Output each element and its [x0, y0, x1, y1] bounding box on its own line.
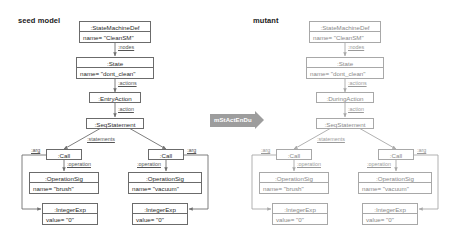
- node-type-label: :StateMachineDef: [80, 22, 150, 32]
- node-operationsig-vacuum-seed[interactable]: :OperationSig name= "vacuum": [128, 172, 202, 194]
- edge-label-statements-mutant: :statements: [317, 136, 345, 142]
- node-attr-name: name= "CleanSM": [80, 32, 150, 42]
- node-type-label: :IntegerExp: [43, 204, 97, 214]
- node-attr-value: value= "0": [133, 214, 187, 224]
- node-call-vacuum-mutant[interactable]: :Call: [378, 149, 414, 160]
- node-type-label: :OperationSig: [129, 173, 201, 183]
- node-attr-name: name= "vacuum": [129, 183, 201, 193]
- node-type-label: :State: [77, 58, 153, 68]
- node-integerexp-left-seed[interactable]: :IntegerExp value= "0": [42, 203, 98, 225]
- node-attr-name: name= "CleanSM": [310, 32, 380, 42]
- node-duringaction-mutant[interactable]: :DuringAction: [316, 92, 374, 103]
- node-call-brush-mutant[interactable]: :Call: [276, 149, 312, 160]
- edge-label-nodes-mutant: :nodes: [348, 44, 364, 50]
- node-type-label: :Call: [277, 150, 311, 159]
- node-type-label: :OperationSig: [30, 173, 98, 183]
- node-seqstatement-seed[interactable]: :SeqStatement: [86, 118, 144, 129]
- edge-label-arg-right-seed: :arg: [187, 147, 196, 153]
- node-attr-name: name= "dont_clean": [77, 68, 153, 78]
- node-attr-value: value= "0": [273, 214, 327, 224]
- node-attr-name: name= "brush": [260, 183, 328, 193]
- node-call-brush-seed[interactable]: :Call: [46, 149, 82, 160]
- node-type-label: :Call: [379, 150, 413, 159]
- edge-label-operation-brush-seed: :operation: [67, 161, 91, 167]
- edge-label-arg-left-seed: :arg: [31, 147, 40, 153]
- edge-label-action-seed: :action: [118, 106, 134, 112]
- node-type-label: :IntegerExp: [133, 204, 187, 214]
- node-attr-name: name= "dont_clean": [307, 68, 383, 78]
- node-attr-name: name= "brush": [30, 183, 98, 193]
- node-entryaction-seed[interactable]: :EntryAction: [89, 92, 141, 103]
- edge-label-operation-vacuum-mutant: :operation: [367, 161, 391, 167]
- node-type-label: :SeqStatement: [317, 119, 373, 128]
- node-type-label: :IntegerExp: [273, 204, 327, 214]
- node-operationsig-vacuum-mutant[interactable]: :OperationSig name= "vacuum": [358, 172, 432, 194]
- mutation-arrow: mStActEnDu: [210, 111, 264, 129]
- edge-label-action-mutant: :action: [348, 106, 364, 112]
- edge-label-actions-seed: :actions: [118, 80, 137, 86]
- node-statemachinedef-mutant[interactable]: :StateMachineDef name= "CleanSM": [309, 21, 381, 43]
- node-type-label: :OperationSig: [359, 173, 431, 183]
- node-state-mutant[interactable]: :State name= "dont_clean": [306, 57, 384, 79]
- node-integerexp-right-mutant[interactable]: :IntegerExp value= "0": [362, 203, 418, 225]
- node-statemachinedef-seed[interactable]: :StateMachineDef name= "CleanSM": [79, 21, 151, 43]
- node-operationsig-brush-mutant[interactable]: :OperationSig name= "brush": [259, 172, 329, 194]
- node-type-label: :OperationSig: [260, 173, 328, 183]
- node-type-label: :StateMachineDef: [310, 22, 380, 32]
- node-call-vacuum-seed[interactable]: :Call: [148, 149, 184, 160]
- figure-canvas: seed model :StateMachineDef name= "Clean…: [0, 0, 458, 238]
- node-integerexp-left-mutant[interactable]: :IntegerExp value= "0": [272, 203, 328, 225]
- node-operationsig-brush-seed[interactable]: :OperationSig name= "brush": [29, 172, 99, 194]
- node-type-label: :EntryAction: [90, 93, 140, 102]
- panel-title-seed: seed model: [18, 16, 60, 25]
- node-state-seed[interactable]: :State name= "dont_clean": [76, 57, 154, 79]
- edge-label-arg-left-mutant: :arg: [261, 147, 270, 153]
- edge-label-operation-vacuum-seed: :operation: [137, 161, 161, 167]
- edge-label-operation-brush-mutant: :operation: [297, 161, 321, 167]
- node-type-label: :DuringAction: [317, 93, 373, 102]
- edge-label-statements-seed: :statements: [87, 136, 115, 142]
- panel-title-mutant: mutant: [253, 16, 279, 25]
- edge-label-nodes-seed: :nodes: [118, 44, 134, 50]
- node-integerexp-right-seed[interactable]: :IntegerExp value= "0": [132, 203, 188, 225]
- node-attr-name: name= "vacuum": [359, 183, 431, 193]
- node-attr-value: value= "0": [363, 214, 417, 224]
- node-type-label: :Call: [47, 150, 81, 159]
- node-type-label: :Call: [149, 150, 183, 159]
- mutation-arrow-label: mStActEnDu: [214, 117, 252, 123]
- node-attr-value: value= "0": [43, 214, 97, 224]
- node-seqstatement-mutant[interactable]: :SeqStatement: [316, 118, 374, 129]
- edge-label-arg-right-mutant: :arg: [417, 147, 426, 153]
- node-type-label: :SeqStatement: [87, 119, 143, 128]
- mutation-arrow-head: [255, 111, 264, 129]
- node-type-label: :IntegerExp: [363, 204, 417, 214]
- mutation-arrow-body: mStActEnDu: [210, 114, 255, 127]
- node-type-label: :State: [307, 58, 383, 68]
- edge-label-actions-mutant: :actions: [348, 80, 367, 86]
